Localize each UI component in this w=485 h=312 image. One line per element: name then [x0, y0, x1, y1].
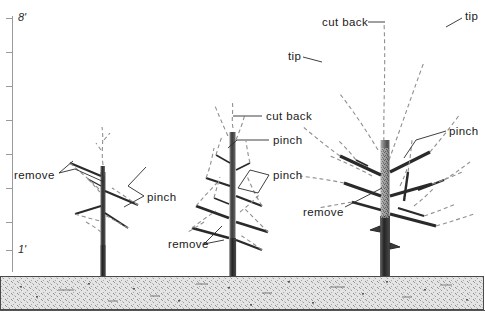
height-scale-ruler [6, 16, 13, 272]
annotation-tip-mid: tip [288, 51, 301, 63]
scale-label-top: 8' [18, 12, 26, 23]
tree-year-1 [59, 127, 146, 276]
leader-tip-right [446, 18, 462, 27]
annotation-remove-mid: remove [168, 239, 209, 251]
leader-remove-left [59, 161, 104, 182]
annotation-pinch-right: pinch [449, 126, 479, 138]
annotation-remove-right: remove [303, 207, 344, 219]
scale-label-bottom: 1' [18, 244, 26, 255]
tree-year-3 [300, 18, 474, 276]
annotation-cut-back-right: cut back [322, 17, 368, 29]
pruning-diagram [0, 0, 485, 312]
leader-pinch-mid-2 [238, 170, 269, 193]
annotation-cut-back-mid: cut back [266, 111, 312, 123]
soil-band [1, 277, 484, 310]
annotation-pinch-mid-2: pinch [273, 170, 303, 182]
annotation-tip-right: tip [465, 11, 478, 23]
annotation-pinch-left: pinch [147, 192, 177, 204]
figure-canvas: 8' 1' remove pinch cut back pinch pinch … [0, 0, 485, 312]
annotation-remove-left: remove [14, 170, 55, 182]
annotation-pinch-mid-1: pinch [273, 135, 303, 147]
leader-tip-mid [303, 57, 322, 62]
